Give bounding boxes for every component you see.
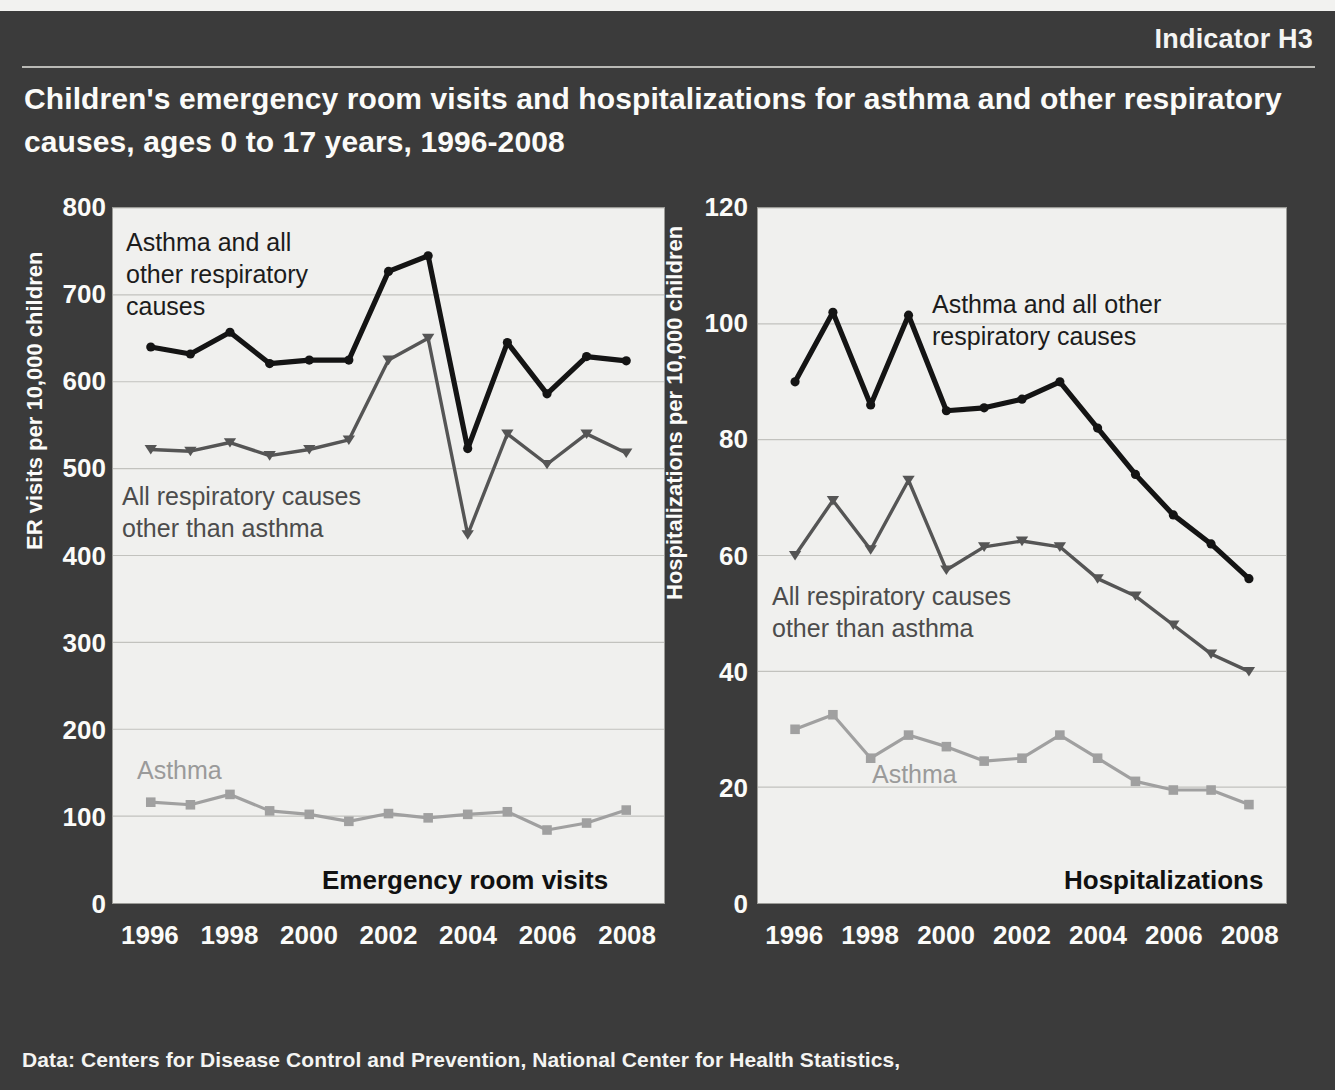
hosp-plot-area	[757, 207, 1287, 904]
series-line	[151, 256, 626, 449]
header-divider	[22, 66, 1315, 68]
panel-caption: Emergency room visits	[322, 865, 608, 896]
data-point-marker	[305, 810, 315, 820]
data-point-marker	[904, 730, 914, 740]
data-point-marker	[344, 355, 353, 364]
data-point-marker	[225, 790, 235, 800]
data-point-marker	[542, 389, 551, 398]
data-point-marker	[462, 530, 474, 540]
y-axis-tick-label: 800	[36, 194, 106, 220]
data-point-marker	[225, 328, 234, 337]
data-point-marker	[542, 825, 552, 835]
data-point-marker	[503, 338, 512, 347]
y-axis-tick-label: 200	[36, 717, 106, 743]
x-axis-tick-label: 2006	[519, 920, 577, 951]
data-point-marker	[828, 710, 838, 720]
data-point-marker	[265, 806, 275, 816]
data-point-marker	[1017, 395, 1026, 404]
data-point-marker	[384, 267, 393, 276]
hosp-x-axis-ticks: 1996199820002002200420062008	[757, 920, 1287, 954]
y-axis-tick-label: 600	[36, 368, 106, 394]
data-point-marker	[541, 460, 553, 469]
y-axis-tick-label: 300	[36, 630, 106, 656]
data-point-marker	[382, 356, 394, 366]
data-point-marker	[186, 349, 195, 358]
panel-caption: Hospitalizations	[1064, 865, 1263, 896]
indicator-tag: Indicator H3	[1155, 24, 1313, 55]
data-point-marker	[1244, 800, 1254, 810]
page-title: Children's emergency room visits and hos…	[24, 78, 1314, 163]
y-axis-tick-label: 100	[678, 310, 748, 336]
data-point-marker	[582, 352, 591, 361]
y-axis-tick-label: 40	[678, 659, 748, 685]
y-axis-tick-label: 80	[678, 426, 748, 452]
data-point-marker	[866, 400, 875, 409]
data-point-marker	[1093, 423, 1102, 432]
data-point-marker	[622, 356, 631, 365]
data-point-marker	[828, 308, 837, 317]
x-axis-tick-label: 2008	[598, 920, 656, 951]
data-point-marker	[940, 566, 952, 575]
data-point-marker	[1169, 785, 1179, 795]
x-axis-tick-label: 2004	[1069, 920, 1127, 951]
data-point-marker	[979, 756, 989, 766]
data-point-marker	[265, 359, 274, 368]
scan-top-strip	[0, 0, 1335, 11]
data-point-marker	[1206, 785, 1216, 795]
data-point-marker	[1131, 470, 1140, 479]
data-point-marker	[902, 476, 914, 486]
y-axis-tick-label: 0	[36, 891, 106, 917]
x-axis-tick-label: 2000	[917, 920, 975, 951]
data-point-marker	[384, 809, 394, 819]
data-point-marker	[503, 807, 513, 817]
y-axis-tick-label: 0	[678, 891, 748, 917]
data-point-marker	[864, 545, 876, 555]
series-line	[795, 480, 1249, 671]
data-point-marker	[790, 377, 799, 386]
y-axis-tick-label: 500	[36, 455, 106, 481]
data-point-marker	[980, 403, 989, 412]
data-point-marker	[146, 797, 156, 807]
data-point-marker	[146, 342, 155, 351]
data-point-marker	[1055, 730, 1065, 740]
data-point-marker	[582, 818, 592, 828]
x-axis-tick-label: 1996	[121, 920, 179, 951]
data-point-marker	[186, 800, 196, 810]
hosp-chart-svg	[758, 208, 1286, 903]
data-point-marker	[424, 251, 433, 260]
y-axis-tick-label: 700	[36, 281, 106, 307]
x-axis-tick-label: 2004	[439, 920, 497, 951]
data-point-marker	[942, 406, 951, 415]
er-chart-svg	[113, 208, 664, 903]
data-point-marker	[463, 444, 472, 453]
x-axis-tick-label: 2000	[280, 920, 338, 951]
x-axis-tick-label: 2006	[1145, 920, 1203, 951]
x-axis-tick-label: 2002	[360, 920, 418, 951]
series-line	[151, 338, 626, 534]
data-point-marker	[1169, 510, 1178, 519]
data-point-marker	[305, 355, 314, 364]
data-point-marker	[1207, 539, 1216, 548]
er-plot-area	[112, 207, 665, 904]
er-x-axis-ticks: 1996199820002002200420062008	[112, 920, 665, 954]
y-axis-tick-label: 400	[36, 543, 106, 569]
x-axis-tick-label: 2008	[1221, 920, 1279, 951]
data-point-marker	[463, 810, 473, 820]
data-point-marker	[620, 449, 632, 459]
x-axis-tick-label: 1998	[201, 920, 259, 951]
y-axis-tick-label: 60	[678, 543, 748, 569]
data-point-marker	[1244, 574, 1253, 583]
y-axis-tick-label: 100	[36, 804, 106, 830]
data-point-marker	[866, 753, 876, 763]
data-point-marker	[423, 813, 433, 823]
data-point-marker	[1131, 777, 1141, 787]
data-point-marker	[790, 725, 800, 735]
data-point-marker	[1055, 377, 1064, 386]
data-point-marker	[942, 742, 952, 752]
data-point-marker	[904, 311, 913, 320]
data-point-marker	[1017, 753, 1027, 763]
x-axis-tick-label: 2002	[993, 920, 1051, 951]
x-axis-tick-label: 1998	[841, 920, 899, 951]
data-point-marker	[344, 817, 354, 827]
data-point-marker	[621, 805, 631, 815]
